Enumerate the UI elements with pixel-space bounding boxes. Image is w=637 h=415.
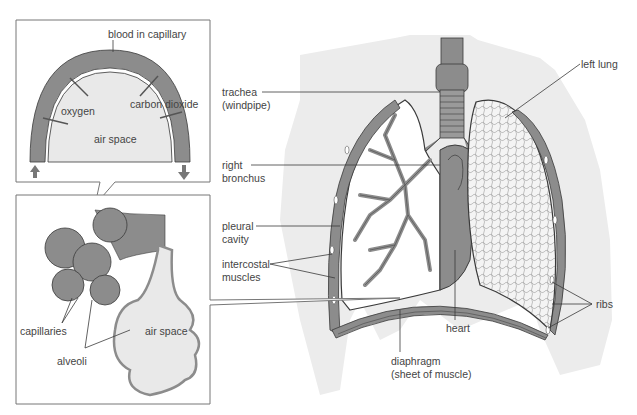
label-trachea-line1: trachea: [222, 86, 270, 99]
respiratory-diagram: blood in capillary oxygen carbon dioxide…: [0, 0, 637, 415]
label-left-lung: left lung: [581, 58, 618, 71]
label-trachea-line2: (windpipe): [222, 99, 270, 112]
label-intercostal: intercostal: [222, 258, 270, 271]
label-intercostal-muscles: intercostal muscles: [222, 258, 270, 284]
label-bronchus: bronchus: [222, 172, 265, 185]
label-carbon-dioxide: carbon dioxide: [130, 98, 198, 111]
label-dioxide: dioxide: [165, 98, 198, 110]
diagram-canvas: [0, 0, 637, 415]
label-right-bronchus: right bronchus: [222, 159, 265, 185]
label-diaphragm-line1: diaphragm: [391, 355, 472, 368]
label-trachea: trachea (windpipe): [222, 86, 270, 112]
label-muscles: muscles: [222, 271, 270, 284]
inset-top-box: [16, 20, 210, 205]
label-alveoli: alveoli: [57, 355, 87, 368]
label-space: space: [160, 325, 188, 337]
label-ribs: ribs: [596, 298, 613, 311]
label-oxygen: oxygen: [61, 105, 95, 118]
diaphragm: [332, 306, 548, 340]
label-blood-in-capillary: blood in capillary: [108, 28, 186, 41]
label-pleural-cavity: pleural cavity: [222, 220, 254, 246]
label-carbon: carbon: [130, 98, 162, 110]
label-cavity: cavity: [222, 233, 254, 246]
label-capillaries: capillaries: [20, 325, 67, 338]
label-diaphragm: diaphragm (sheet of muscle): [391, 355, 472, 381]
label-right: right: [222, 159, 265, 172]
label-heart: heart: [446, 322, 470, 335]
label-air-space-bottom: air space: [145, 325, 188, 338]
label-diaphragm-line2: (sheet of muscle): [391, 368, 472, 381]
label-pleural: pleural: [222, 220, 254, 233]
label-air-space-top: air space: [94, 133, 137, 146]
label-air: air: [145, 325, 157, 337]
